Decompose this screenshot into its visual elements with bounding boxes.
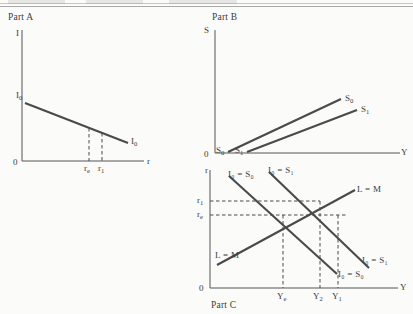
part-c-x-tick-ye: Ye [277,292,286,301]
part-c-label-lm-left: L = M [215,251,239,260]
part-b-y-axis-label: S [204,26,209,35]
part-c-y-tick-r1: r1 [197,196,203,205]
part-b-title: Part B [212,13,237,23]
part-b-label-left-s0-sub: 0 [221,149,224,156]
part-b-label-left-s1: S1 [235,146,243,155]
part-c-origin-label: 0 [199,284,204,293]
part-b-label-right-s0: S0 [345,94,353,103]
part-c-x-tick-ye-base: Y [277,291,284,301]
part-c-y-tick-re-sub: e [200,213,203,220]
part-b-label-left-s0: S0 [216,146,224,155]
part-c-x-tick-y2-base: Y [313,291,320,301]
part-b-label-right-s1: S1 [361,105,369,114]
part-a-x-axis-label: r [147,157,150,166]
part-b-curve-s0 [228,99,341,152]
part-c-title: Part C [211,301,236,311]
part-a-origin-label: 0 [13,158,18,167]
part-c-label-is0-bottom: I₀ = S₀ [338,270,364,279]
part-b-x-axis-label: Y [401,148,408,157]
figure-page: Part A I r 0 I0 I0 re r1 Part B S Y 0 S0… [0,0,413,314]
part-c-x-axis-label: Y [400,283,407,292]
part-a-curve-label-left: I0 [16,91,22,100]
part-c-label-is1-top: I₀ = S₁ [268,166,294,175]
part-a-curve-label-right: I0 [131,137,137,146]
part-c-x-tick-ye-sub: e [284,295,287,302]
part-a-curve-label-left-sub: 0 [19,94,22,101]
part-a-title: Part A [8,13,33,23]
part-b-label-left-s1-sub: 1 [240,149,243,156]
part-c-x-tick-y2-sub: 2 [320,295,323,302]
part-a-tick-re: re [84,164,90,173]
part-c-label-lm-right: L = M [357,185,381,194]
part-a-tick-re-sub: e [87,167,90,174]
part-c-label-is1-bottom: I₀ = S₁ [362,256,388,265]
part-c-label-is0-top: I₀ = S₀ [228,170,254,179]
part-c-curve-is1 [269,172,369,268]
part-c-x-tick-y1-base: Y [332,291,339,301]
part-c-y-tick-r1-sub: 1 [200,199,203,206]
part-a-y-axis-label: I [16,29,19,38]
part-a-curve-i0 [25,103,128,143]
part-b-label-right-s1-sub: 1 [366,108,369,115]
part-c-y-tick-re: re [197,210,203,219]
part-a-tick-r1-sub: 1 [101,167,104,174]
part-c-y-axis-label: r [205,166,208,175]
part-a-curve-label-right-sub: 0 [134,140,137,147]
part-c-x-tick-y1: Y1 [332,292,342,301]
part-b-label-right-s0-sub: 0 [350,97,353,104]
part-c-x-tick-y2: Y2 [313,292,323,301]
part-a-tick-r1: r1 [98,164,104,173]
part-b-origin-label: 0 [204,150,209,159]
part-c-x-tick-y1-sub: 1 [339,295,342,302]
